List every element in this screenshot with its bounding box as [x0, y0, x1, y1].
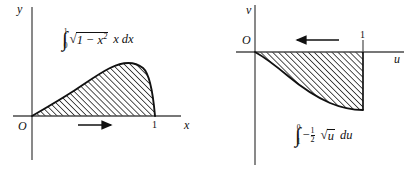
- radical-left: √1 − x2: [70, 30, 109, 46]
- radicand-text-right: u: [328, 129, 334, 143]
- differential-left: dx: [122, 32, 134, 46]
- tick-label-u-one: 1: [360, 29, 365, 40]
- tick-label-x-one: 1: [152, 119, 157, 130]
- axis-label-u: u: [394, 52, 400, 67]
- formula-left: ∫10√1 − x2xdx: [62, 26, 134, 48]
- lower-limit-right: 1: [297, 138, 301, 146]
- radicand-exponent-left: 2: [103, 32, 107, 41]
- radicand-left: 1 − x2: [76, 32, 108, 47]
- formula-sign-right: −: [303, 128, 310, 142]
- coefficient-numerator: 1: [311, 127, 315, 135]
- differential-right: du: [340, 128, 353, 142]
- radicand-right: u: [327, 129, 335, 143]
- axis-label-y: y: [17, 2, 22, 17]
- xy-shaded-region: [32, 63, 155, 116]
- origin-label-left: O: [18, 119, 27, 134]
- integral-substitution-figure: y x O 1 v u O 1 ∫10√1 − x2xdx ∫01−12√udu: [0, 0, 420, 169]
- integral-limits-right: 01: [297, 127, 301, 143]
- integral-limits-left: 10: [64, 31, 68, 47]
- axis-label-x: x: [184, 118, 189, 133]
- coefficient-fraction-right: 12: [311, 127, 315, 144]
- radicand-text-left: 1 − x: [77, 33, 103, 47]
- integrand-factor-left: x: [113, 32, 119, 46]
- uv-shaded-region: [255, 52, 363, 110]
- axis-label-v: v: [246, 3, 251, 18]
- coefficient-denominator: 2: [311, 135, 315, 144]
- upper-limit-right: 0: [297, 124, 301, 132]
- radical-right: √u: [321, 127, 335, 142]
- lower-limit-left: 0: [64, 42, 68, 50]
- formula-right: ∫01−12√udu: [295, 122, 352, 145]
- upper-limit-left: 1: [64, 28, 68, 36]
- origin-label-right: O: [242, 33, 251, 48]
